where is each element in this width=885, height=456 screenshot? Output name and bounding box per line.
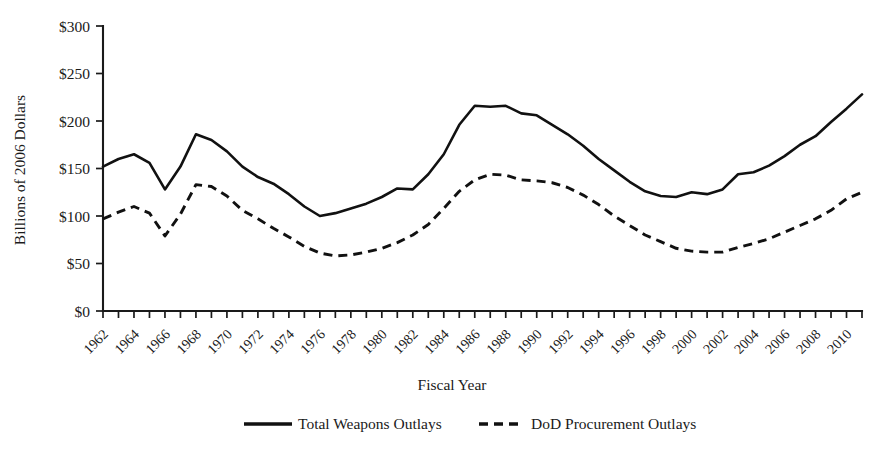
x-tick-label: 1998 [638,327,668,357]
y-tick-label: $0 [75,303,91,320]
x-tick-label: 1978 [329,327,359,357]
y-axis-ticks: $0$50$100$150$200$250$300 [59,18,103,320]
x-tick-label: 1970 [205,327,235,357]
x-tick-label: 1974 [267,327,297,357]
x-tick-label: 1992 [545,327,575,357]
chart-container: $0$50$100$150$200$250$300 19621964196619… [0,0,885,456]
x-axis-title: Fiscal Year [418,376,488,393]
y-tick-label: $50 [67,255,91,272]
x-tick-label: 1996 [607,327,637,357]
y-tick-label: $300 [59,18,90,35]
x-tick-label: 1980 [360,327,390,357]
legend-label-total-weapons-outlays: Total Weapons Outlays [298,415,442,432]
y-tick-label: $250 [59,65,90,82]
x-axis-ticks: 1962196419661968197019721974197619781980… [81,311,862,357]
series-line-total-weapons-outlays [103,94,862,216]
x-tick-label: 2010 [824,327,854,357]
legend-label-dod-procurement-outlays: DoD Procurement Outlays [531,415,696,432]
x-tick-label: 1962 [81,327,111,357]
x-tick-label: 2008 [793,327,823,357]
x-tick-label: 1986 [452,327,482,357]
x-tick-label: 1984 [421,327,451,357]
x-tick-label: 1972 [236,327,266,357]
x-tick-label: 2006 [762,327,792,357]
line-chart: $0$50$100$150$200$250$300 19621964196619… [0,0,885,456]
y-tick-label: $150 [59,160,90,177]
y-tick-label: $200 [59,113,90,130]
x-tick-label: 1976 [298,327,328,357]
x-tick-label: 2004 [731,327,761,357]
y-tick-label: $100 [59,208,90,225]
x-tick-label: 1994 [576,327,606,357]
x-tick-label: 2002 [700,327,730,357]
series-line-dod-procurement-outlays [103,174,862,256]
x-tick-label: 2000 [669,327,699,357]
chart-legend: Total Weapons Outlays DoD Procurement Ou… [244,415,696,432]
x-tick-label: 1988 [483,327,513,357]
x-tick-label: 1982 [391,327,421,357]
x-tick-label: 1968 [174,327,204,357]
x-tick-label: 1990 [514,327,544,357]
x-tick-label: 1964 [112,327,142,357]
y-axis-title: Billions of 2006 Dollars [11,95,28,245]
x-tick-label: 1966 [143,327,173,357]
series-layer [103,94,862,256]
